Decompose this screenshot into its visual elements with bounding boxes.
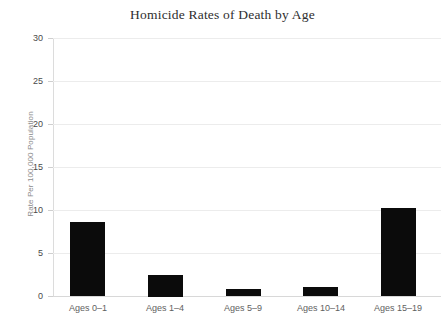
y-axis-tick-mark — [48, 253, 53, 254]
y-axis-tick-label: 15 — [13, 162, 43, 172]
gridline — [53, 38, 441, 39]
bar — [303, 287, 338, 296]
gridline — [53, 124, 441, 125]
gridline — [53, 81, 441, 82]
gridline — [53, 296, 441, 297]
y-axis-tick-label: 30 — [13, 33, 43, 43]
y-axis-tick-label: 25 — [13, 76, 43, 86]
y-axis-tick-label: 10 — [13, 205, 43, 215]
bar — [70, 222, 105, 296]
y-axis-tick-label: 20 — [13, 119, 43, 129]
bar — [226, 289, 261, 296]
y-axis-tick-label: 5 — [13, 248, 43, 258]
y-axis-tick-mark — [48, 124, 53, 125]
bar — [381, 208, 416, 296]
chart-title: Homicide Rates of Death by Age — [0, 7, 445, 23]
y-axis-tick-mark — [48, 296, 53, 297]
y-axis-tick-mark — [48, 167, 53, 168]
x-axis-tick-label: Ages 1–4 — [120, 303, 210, 313]
x-axis-tick-label: Ages 5–9 — [198, 303, 288, 313]
y-axis-tick-mark — [48, 210, 53, 211]
bar — [148, 275, 183, 297]
gridline — [53, 167, 441, 168]
y-axis-tick-mark — [48, 81, 53, 82]
y-axis-tick-mark — [48, 38, 53, 39]
chart-container: Homicide Rates of Death by Age Rate Per … — [0, 0, 445, 331]
y-axis-tick-label: 0 — [13, 291, 43, 301]
x-axis-tick-label: Ages 15–19 — [353, 303, 443, 313]
